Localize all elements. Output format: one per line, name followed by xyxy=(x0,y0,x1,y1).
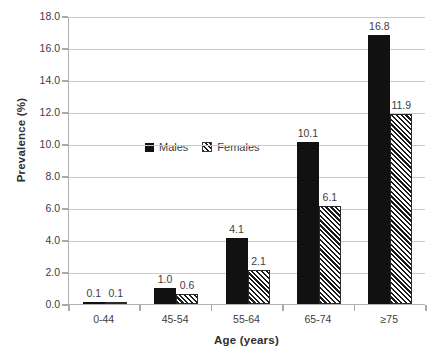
plot-area: MalesFemales 0.10.11.00.64.12.110.16.116… xyxy=(68,17,425,305)
y-tick-label: 0.0 xyxy=(22,298,60,310)
bar-females-≥75 xyxy=(390,114,412,304)
bar-value-label: 10.1 xyxy=(294,127,322,139)
legend-item-females: Females xyxy=(202,141,259,153)
bar-males-55-64 xyxy=(226,238,248,304)
bar-females-45-54 xyxy=(176,294,198,304)
x-tick-label-≥75: ≥75 xyxy=(354,313,425,325)
y-tick-label: 16.0 xyxy=(22,42,60,54)
chart-legend: MalesFemales xyxy=(145,141,260,153)
x-tick xyxy=(211,305,213,311)
x-tick xyxy=(68,305,70,311)
bar-value-label: 2.1 xyxy=(245,255,273,267)
bar-value-label: 11.9 xyxy=(387,99,415,111)
x-tick-label-0-44: 0-44 xyxy=(68,313,139,325)
y-tick-label: 8.0 xyxy=(22,170,60,182)
legend-item-males: Males xyxy=(145,141,188,153)
x-tick-label-45-54: 45-54 xyxy=(139,313,210,325)
bar-females-65-74 xyxy=(319,206,341,304)
y-tick-label: 4.0 xyxy=(22,234,60,246)
y-tick-label: 2.0 xyxy=(22,266,60,278)
x-tick xyxy=(139,305,141,311)
bar-value-label: 16.8 xyxy=(365,20,393,32)
legend-label: Females xyxy=(217,141,259,153)
gridline xyxy=(69,17,425,18)
bar-chart: Prevalence (%) 0.02.04.06.08.010.012.014… xyxy=(0,0,446,358)
y-tick-label: 10.0 xyxy=(22,138,60,150)
bar-females-0-44 xyxy=(105,302,127,304)
legend-label: Males xyxy=(159,141,188,153)
bar-males-65-74 xyxy=(297,142,319,304)
bar-value-label: 0.6 xyxy=(173,279,201,291)
bar-value-label: 6.1 xyxy=(316,191,344,203)
bar-males-0-44 xyxy=(83,302,105,304)
bar-value-label: 4.1 xyxy=(223,223,251,235)
bar-females-55-64 xyxy=(248,270,270,304)
y-tick-label: 12.0 xyxy=(22,106,60,118)
y-tick-label: 18.0 xyxy=(22,10,60,22)
bar-males-≥75 xyxy=(368,35,390,304)
y-tick-label: 6.0 xyxy=(22,202,60,214)
x-tick xyxy=(282,305,284,311)
bar-value-label: 0.1 xyxy=(102,287,130,299)
legend-swatch-females-icon xyxy=(202,142,212,152)
x-tick xyxy=(354,305,356,311)
x-tick xyxy=(425,305,427,311)
x-tick-label-65-74: 65-74 xyxy=(282,313,353,325)
x-axis-title: Age (years) xyxy=(68,334,425,346)
y-tick-label: 14.0 xyxy=(22,74,60,86)
x-tick-label-55-64: 55-64 xyxy=(211,313,282,325)
